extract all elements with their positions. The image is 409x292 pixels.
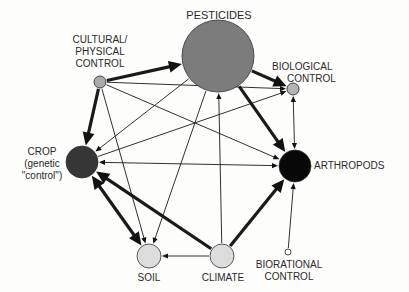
label-crop: CROP (genetic "control") (20, 146, 64, 182)
pest-management-diagram: PESTICIDES CULTURAL/ PHYSICAL CONTROL BI… (0, 0, 409, 292)
arrowhead-icon (168, 61, 182, 73)
arrowhead-icon (141, 237, 146, 243)
crop-label-line-3: "control") (20, 170, 64, 182)
edge-biological-to-arthropods (291, 96, 297, 149)
edge-line (219, 97, 222, 243)
node-soil (137, 244, 161, 268)
label-soil: SOIL (129, 272, 169, 284)
edge-line (106, 85, 275, 158)
arrowhead-icon (216, 93, 221, 99)
arrowhead-icon (280, 91, 287, 96)
climate-label: CLIMATE (202, 272, 245, 283)
cultural-label-line-3: CONTROL (64, 58, 136, 70)
soil-label: SOIL (138, 272, 161, 283)
edge-crop-to-biological (98, 91, 286, 157)
edge-line (99, 79, 189, 149)
biological-label-line-1: BIOLOGICAL (272, 61, 372, 73)
label-biological-control: BIOLOGICAL CONTROL (272, 61, 372, 85)
arrowhead-icon (272, 163, 278, 168)
node-pesticides (182, 20, 254, 92)
edge-cultural-to-crop (83, 89, 99, 146)
label-biorational-control: BIORATIONAL CONTROL (252, 259, 326, 283)
cultural-label-line-1: CULTURAL/ (64, 34, 136, 46)
arrowhead-icon (162, 253, 168, 258)
cultural-label-line-2: PHYSICAL (64, 46, 136, 58)
edge-pesticides-to-arthropods (239, 86, 285, 152)
biorational-label-line-2: CONTROL (252, 271, 326, 283)
edge-biorational-to-arthropods (288, 183, 295, 248)
node-biorational (285, 249, 291, 255)
edge-line (105, 178, 211, 249)
arrowhead-icon (95, 146, 101, 152)
edge-arthropods-to-crop (99, 160, 278, 168)
edge-line (230, 188, 277, 246)
arrowhead-icon (153, 237, 158, 244)
edge-line (103, 162, 274, 165)
label-arthropods: ARTHROPODS (314, 160, 384, 172)
node-climate (210, 244, 234, 268)
crop-label-line-1: CROP (20, 146, 64, 158)
biological-label-line-2: CONTROL (272, 73, 372, 85)
edge-line (88, 89, 98, 135)
node-arthropods (279, 150, 311, 182)
arrowhead-icon (273, 138, 285, 152)
arrowhead-icon (291, 96, 296, 102)
pesticides-label: PESTICIDES (186, 9, 251, 21)
arrowhead-icon (83, 131, 95, 145)
label-cultural-physical-control: CULTURAL/ PHYSICAL CONTROL (64, 34, 136, 70)
edge-pesticides-to-soil (153, 91, 206, 244)
arrowhead-icon (291, 183, 296, 189)
arrowhead-icon (99, 160, 105, 165)
node-crop (66, 146, 98, 178)
edges-layer (83, 61, 297, 259)
edge-climate-to-arthropods (230, 179, 284, 246)
edge-cultural-to-arthropods (106, 85, 279, 160)
label-climate: CLIMATE (196, 272, 250, 284)
edge-line (239, 86, 279, 143)
edge-line (98, 93, 283, 157)
arrowhead-icon (292, 143, 297, 149)
arrowhead-icon (280, 86, 286, 91)
crop-label-line-2: (genetic (20, 158, 64, 170)
edge-climate-to-crop (96, 171, 211, 248)
biorational-label-line-1: BIORATIONAL (252, 259, 326, 271)
node-cultural (94, 76, 106, 88)
edge-line (293, 100, 294, 145)
edge-line (288, 187, 293, 248)
arthropods-label: ARTHROPODS (314, 160, 384, 171)
arrowhead-icon (129, 231, 141, 245)
label-pesticides: PESTICIDES (183, 9, 255, 21)
edge-climate-to-soil (162, 253, 209, 258)
